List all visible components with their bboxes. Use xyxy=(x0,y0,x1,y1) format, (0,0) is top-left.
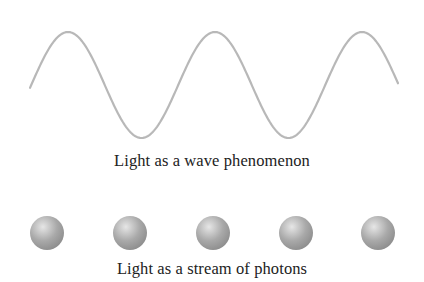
wave-particle-diagram xyxy=(0,0,424,282)
photon-sphere xyxy=(113,216,147,250)
photon-sphere xyxy=(279,216,313,250)
photon-sphere xyxy=(30,216,64,250)
photon-sphere xyxy=(361,216,395,250)
wave-caption: Light as a wave phenomenon xyxy=(0,151,424,171)
photon-sphere xyxy=(196,216,230,250)
photon-caption: Light as a stream of photons xyxy=(0,259,424,279)
light-wave-curve xyxy=(30,32,398,138)
photon-stream xyxy=(30,216,395,250)
